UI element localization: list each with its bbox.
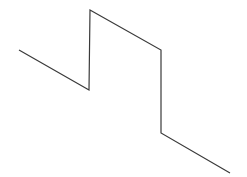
zigzag-line-drawing xyxy=(0,0,247,177)
zigzag-polyline xyxy=(19,10,230,173)
diagram-canvas xyxy=(0,0,247,177)
